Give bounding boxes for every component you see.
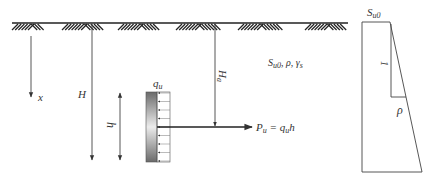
- hatch-stroke: [205, 24, 211, 30]
- x-axis: x: [31, 36, 43, 103]
- hatch-stroke: [75, 24, 81, 30]
- hatch-stroke: [68, 24, 74, 30]
- profile-top-label: Su0: [367, 6, 381, 20]
- hatch-stroke: [327, 24, 333, 30]
- hatch-stroke: [324, 24, 330, 30]
- pullout-force-label: Pu = quh: [255, 121, 295, 135]
- hatch-stroke: [147, 24, 153, 30]
- hatch-stroke: [208, 24, 214, 30]
- hatch-stroke: [31, 24, 37, 30]
- hatch-stroke: [62, 24, 68, 30]
- depth-H-label: H: [77, 88, 87, 100]
- hatch-stroke: [144, 24, 150, 30]
- ground-hatching: [12, 24, 346, 30]
- hatch-stroke: [276, 24, 282, 30]
- hatch-stroke: [25, 24, 31, 30]
- hatch-stroke: [186, 24, 192, 30]
- anchor-depth-Ha: Ha: [215, 24, 229, 126]
- hatch-stroke: [270, 24, 276, 30]
- hatch-stroke: [202, 24, 208, 30]
- hatch-stroke: [340, 24, 346, 30]
- hatch-stroke: [198, 24, 204, 30]
- hatch-stroke: [254, 24, 260, 30]
- hatch-stroke: [38, 24, 44, 30]
- anchor-plate: qu: [146, 77, 170, 162]
- hatch-stroke: [22, 24, 28, 30]
- load-q-label: qu: [153, 77, 163, 91]
- hatch-stroke: [192, 24, 198, 30]
- hatch-stroke: [81, 24, 87, 30]
- hatch-stroke: [118, 24, 124, 30]
- pullout-force: Pu = quh: [157, 121, 295, 135]
- hatch-stroke: [241, 24, 247, 30]
- hatch-stroke: [28, 24, 34, 30]
- hatch-stroke: [140, 24, 146, 30]
- hatch-stroke: [18, 24, 24, 30]
- slope-vertical-label: 1: [379, 61, 390, 66]
- hatch-stroke: [182, 24, 188, 30]
- hatch-stroke: [244, 24, 250, 30]
- hatch-stroke: [273, 24, 279, 30]
- hatch-stroke: [238, 24, 244, 30]
- hatch-stroke: [134, 24, 140, 30]
- hatch-stroke: [94, 24, 100, 30]
- plate-height-dimension: h: [104, 93, 120, 160]
- hatch-stroke: [211, 24, 217, 30]
- hatch-stroke: [251, 24, 257, 30]
- hatch-stroke: [131, 24, 137, 30]
- hatch-stroke: [137, 24, 143, 30]
- depth-H-dimension: H: [77, 24, 92, 160]
- hatch-stroke: [72, 24, 78, 30]
- soil-properties-label: Su0, ρ, γs: [268, 57, 303, 70]
- hatch-stroke: [331, 24, 337, 30]
- plate-body: [146, 92, 157, 162]
- hatch-stroke: [308, 24, 314, 30]
- hatch-stroke: [337, 24, 343, 30]
- hatch-stroke: [315, 24, 321, 30]
- strength-profile: Su0 1 ρ: [362, 6, 422, 172]
- hatch-stroke: [124, 24, 130, 30]
- hatch-stroke: [153, 24, 159, 30]
- hatch-stroke: [179, 24, 185, 30]
- hatch-stroke: [128, 24, 134, 30]
- hatch-stroke: [264, 24, 270, 30]
- hatch-stroke: [334, 24, 340, 30]
- hatch-stroke: [248, 24, 254, 30]
- anchor-depth-label: Ha: [215, 69, 229, 82]
- hatch-stroke: [189, 24, 195, 30]
- hatch-stroke: [121, 24, 127, 30]
- hatch-stroke: [321, 24, 327, 30]
- hatch-stroke: [88, 24, 94, 30]
- hatch-stroke: [34, 24, 40, 30]
- hatch-stroke: [257, 24, 263, 30]
- hatch-stroke: [97, 24, 103, 30]
- x-axis-label: x: [37, 91, 43, 103]
- hatch-stroke: [78, 24, 84, 30]
- hatch-stroke: [15, 24, 21, 30]
- slope-horizontal-label: ρ: [396, 103, 403, 117]
- ground-surface: [12, 23, 348, 30]
- hatch-stroke: [84, 24, 90, 30]
- hatch-stroke: [267, 24, 273, 30]
- hatch-stroke: [311, 24, 317, 30]
- hatch-stroke: [176, 24, 182, 30]
- plate-height-label: h: [104, 122, 118, 128]
- hatch-stroke: [305, 24, 311, 30]
- diagram-canvas: x H h qu Ha Pu = quh Su0, ρ, γs Su0 1 ρ: [0, 0, 433, 181]
- hatch-stroke: [150, 24, 156, 30]
- hatch-stroke: [260, 24, 266, 30]
- hatch-stroke: [195, 24, 201, 30]
- hatch-stroke: [318, 24, 324, 30]
- hatch-stroke: [12, 24, 18, 30]
- hatch-stroke: [65, 24, 71, 30]
